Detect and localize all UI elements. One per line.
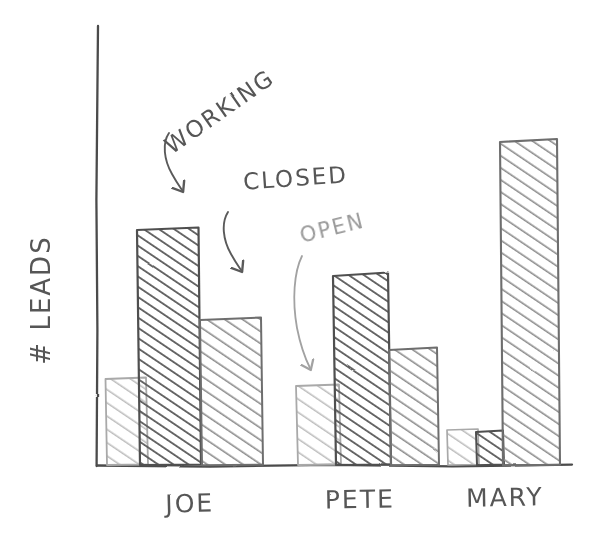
- bar-joe-closed[interactable]: [200, 318, 263, 466]
- bar-mary-working[interactable]: [476, 431, 504, 466]
- bar-chart-sketch: # LEADS WORKING CLOSED OPEN JOE PETE MAR…: [0, 0, 596, 557]
- y-axis-line: [96, 26, 98, 466]
- bar-mary-open[interactable]: [447, 429, 479, 465]
- bar-rect: [137, 228, 201, 466]
- bar-rect: [389, 348, 439, 466]
- bar-rect: [447, 429, 479, 465]
- y-axis-label: # LEADS: [26, 235, 56, 364]
- bar-joe-working[interactable]: [137, 228, 201, 466]
- bar-pete-closed[interactable]: [389, 348, 439, 466]
- x-axis-label-joe: JOE: [163, 488, 215, 518]
- sketch-chart-canvas: # LEADS WORKING CLOSED OPEN JOE PETE MAR…: [0, 0, 596, 557]
- bar-pete-working[interactable]: [333, 273, 391, 466]
- bar-rect: [333, 273, 391, 466]
- bar-rect: [500, 139, 560, 465]
- x-axis-label-pete: PETE: [325, 484, 395, 514]
- bar-rect: [476, 431, 504, 466]
- bar-rect: [200, 318, 263, 466]
- x-axis-label-mary: MARY: [466, 482, 544, 512]
- bar-mary-closed[interactable]: [500, 139, 560, 465]
